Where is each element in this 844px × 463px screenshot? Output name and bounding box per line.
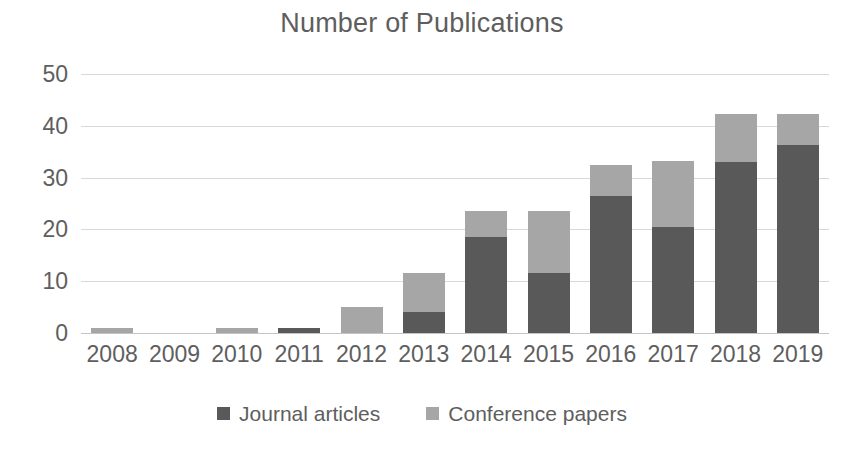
bar-group-2019[interactable] — [777, 74, 819, 333]
bar-segment-conference-papers-2018[interactable] — [715, 114, 757, 162]
bar-segment-conference-papers-2010[interactable] — [216, 328, 258, 333]
bar-segment-conference-papers-2019[interactable] — [777, 114, 819, 145]
bar-segment-journal-articles-2011[interactable] — [278, 328, 320, 333]
bar-segment-conference-papers-2015[interactable] — [528, 211, 570, 273]
bar-segment-conference-papers-2014[interactable] — [465, 211, 507, 237]
legend-item-journal-articles[interactable]: Journal articles — [217, 403, 380, 424]
x-axis-tick-label-2015: 2015 — [517, 341, 579, 369]
bar-segment-journal-articles-2013[interactable] — [403, 312, 445, 333]
y-axis-tick-label: 40 — [8, 114, 68, 137]
bar-stack — [278, 328, 320, 333]
gridline-0 — [81, 333, 829, 334]
legend-swatch-icon — [217, 407, 230, 420]
x-axis-tick-label-2012: 2012 — [330, 341, 392, 369]
publications-bar-chart: Number of Publications 01020304050 20082… — [0, 0, 844, 463]
x-axis-tick-label-2008: 2008 — [81, 341, 143, 369]
bar-stack — [652, 161, 694, 333]
x-axis-tick-label-2016: 2016 — [580, 341, 642, 369]
bar-stack — [341, 307, 383, 333]
chart-legend: Journal articlesConference papers — [0, 403, 844, 424]
y-axis-tick-label: 50 — [8, 63, 68, 86]
legend-label: Conference papers — [448, 403, 627, 424]
bar-segment-conference-papers-2013[interactable] — [403, 273, 445, 312]
legend-item-conference-papers[interactable]: Conference papers — [426, 403, 627, 424]
x-axis-tick-label-2018: 2018 — [704, 341, 766, 369]
y-axis-tick-label: 30 — [8, 166, 68, 189]
x-axis-tick-label-2011: 2011 — [268, 341, 330, 369]
bars-layer — [81, 74, 829, 333]
bar-stack — [465, 211, 507, 333]
bar-segment-journal-articles-2016[interactable] — [590, 196, 632, 333]
bar-group-2017[interactable] — [652, 74, 694, 333]
bar-segment-journal-articles-2017[interactable] — [652, 227, 694, 333]
bar-stack — [777, 114, 819, 333]
x-axis-tick-label-2014: 2014 — [455, 341, 517, 369]
bar-stack — [528, 211, 570, 333]
bar-group-2015[interactable] — [528, 74, 570, 333]
x-axis: 2008200920102011201220132014201520162017… — [81, 341, 829, 375]
chart-title: Number of Publications — [0, 8, 844, 39]
y-axis: 01020304050 — [0, 74, 68, 333]
x-axis-tick-label-2019: 2019 — [767, 341, 829, 369]
x-axis-tick-label-2013: 2013 — [393, 341, 455, 369]
bar-segment-conference-papers-2016[interactable] — [590, 165, 632, 196]
bar-group-2011[interactable] — [278, 74, 320, 333]
bar-group-2009[interactable] — [154, 74, 196, 333]
bar-group-2008[interactable] — [91, 74, 133, 333]
legend-label: Journal articles — [239, 403, 380, 424]
bar-stack — [403, 273, 445, 333]
bar-group-2018[interactable] — [715, 74, 757, 333]
y-axis-tick-label: 0 — [8, 322, 68, 345]
x-axis-tick-label-2017: 2017 — [642, 341, 704, 369]
bar-group-2010[interactable] — [216, 74, 258, 333]
bar-stack — [715, 114, 757, 333]
legend-swatch-icon — [426, 407, 439, 420]
bar-segment-journal-articles-2019[interactable] — [777, 145, 819, 333]
bar-segment-conference-papers-2012[interactable] — [341, 307, 383, 333]
bar-stack — [590, 165, 632, 333]
bar-segment-conference-papers-2008[interactable] — [91, 328, 133, 333]
bar-stack — [91, 328, 133, 333]
y-axis-tick-label: 10 — [8, 270, 68, 293]
bar-segment-conference-papers-2017[interactable] — [652, 161, 694, 227]
bar-segment-journal-articles-2015[interactable] — [528, 273, 570, 333]
y-axis-tick-label: 20 — [8, 218, 68, 241]
bar-group-2013[interactable] — [403, 74, 445, 333]
bar-segment-journal-articles-2014[interactable] — [465, 237, 507, 333]
x-axis-tick-label-2009: 2009 — [143, 341, 205, 369]
bar-group-2016[interactable] — [590, 74, 632, 333]
bar-stack — [216, 328, 258, 333]
x-axis-tick-label-2010: 2010 — [206, 341, 268, 369]
bar-group-2014[interactable] — [465, 74, 507, 333]
bar-segment-journal-articles-2018[interactable] — [715, 162, 757, 333]
bar-group-2012[interactable] — [341, 74, 383, 333]
